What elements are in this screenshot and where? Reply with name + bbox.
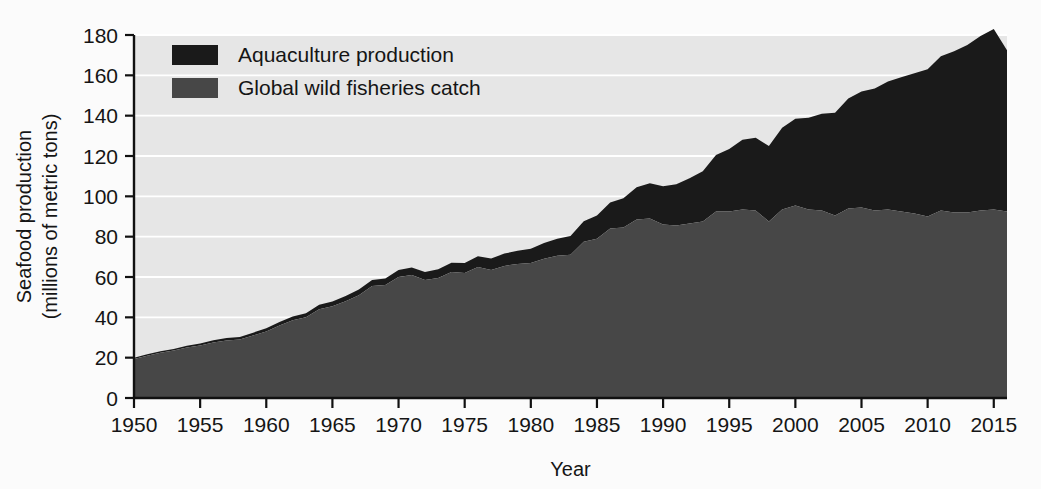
x-axis-ticks: 1950195519601965197019751980198519901995… [111, 398, 1017, 436]
chart-figure: 020406080100120140160180 195019551960196… [0, 0, 1041, 489]
x-tick-label: 1970 [375, 413, 422, 436]
x-tick-label: 1955 [177, 413, 224, 436]
x-tick-label: 1960 [243, 413, 290, 436]
y-tick-label: 120 [83, 145, 118, 168]
y-axis-title-line1: Seafood production [13, 130, 35, 303]
stacked-area-chart: 020406080100120140160180 195019551960196… [0, 0, 1041, 489]
x-tick-label: 1995 [706, 413, 753, 436]
y-tick-label: 180 [83, 24, 118, 47]
x-tick-label: 2010 [904, 413, 951, 436]
x-tick-label: 1980 [507, 413, 554, 436]
y-tick-label: 140 [83, 104, 118, 127]
x-axis-title: Year [550, 458, 591, 480]
y-tick-label: 40 [95, 306, 118, 329]
x-tick-label: 1990 [640, 413, 687, 436]
x-tick-label: 1950 [111, 413, 158, 436]
x-tick-label: 1975 [441, 413, 488, 436]
x-tick-label: 1985 [574, 413, 621, 436]
x-tick-label: 2015 [970, 413, 1017, 436]
y-tick-label: 100 [83, 185, 118, 208]
y-tick-label: 80 [95, 225, 118, 248]
x-tick-label: 1965 [309, 413, 356, 436]
y-tick-label: 0 [106, 387, 118, 410]
y-tick-label: 20 [95, 346, 118, 369]
x-tick-label: 2000 [772, 413, 819, 436]
legend-label: Global wild fisheries catch [238, 76, 481, 99]
y-tick-label: 160 [83, 64, 118, 87]
legend-swatch [172, 45, 218, 65]
y-axis-title-line2: (millions of metric tons) [39, 114, 61, 320]
legend-swatch [172, 78, 218, 98]
y-tick-label: 60 [95, 266, 118, 289]
y-axis-ticks: 020406080100120140160180 [83, 24, 134, 410]
x-tick-label: 2005 [838, 413, 885, 436]
legend-label: Aquaculture production [238, 43, 454, 66]
